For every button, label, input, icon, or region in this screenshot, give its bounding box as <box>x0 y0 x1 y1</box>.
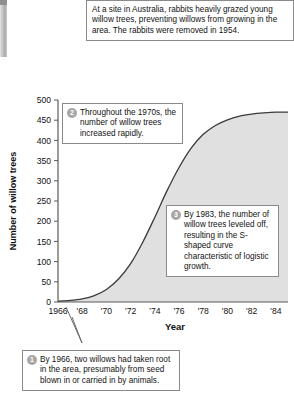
intro-note-box: At a site in Australia, rabbits heavily … <box>86 0 294 41</box>
x-tick-label: '80 <box>222 306 233 316</box>
x-tick-label: '82 <box>246 306 257 316</box>
x-tick-label: '70 <box>101 306 112 316</box>
x-tick-label: '84 <box>270 306 281 316</box>
callout-3-text: By 1983, the number of willow trees leve… <box>184 210 269 271</box>
x-axis-title: Year <box>165 321 185 332</box>
x-tick-label: '74 <box>149 306 160 316</box>
y-axis-title: Number of willow trees <box>8 152 18 251</box>
callout-box-2: 2 Throughout the 1970s, the number of wi… <box>62 103 183 144</box>
callout-2-text: Throughout the 1970s, the number of will… <box>80 108 176 138</box>
callout-1-badge: 1 <box>27 355 37 365</box>
y-tick-label: 250 <box>37 196 52 206</box>
y-tick-label: 50 <box>41 277 51 287</box>
callout-box-1: 1 By 1966, two willows had taken root in… <box>22 350 180 391</box>
callout-1-text: By 1966, two willows had taken root in t… <box>40 355 170 385</box>
callout-box-3: 3 By 1983, the number of willow trees le… <box>166 205 279 277</box>
callout-3-badge: 3 <box>171 210 181 220</box>
y-tick-label: 350 <box>37 156 52 166</box>
x-tick-label: 1966 <box>48 306 67 316</box>
x-tick-label: '72 <box>125 306 136 316</box>
x-tick-label: '76 <box>173 306 184 316</box>
y-tick-label: 400 <box>37 136 52 146</box>
page-edge-cap <box>0 0 7 5</box>
callout-2-badge: 2 <box>67 108 77 118</box>
y-tick-label: 100 <box>37 257 52 267</box>
y-tick-label: 500 <box>37 95 52 105</box>
y-tick-label: 300 <box>37 176 52 186</box>
y-tick-label: 450 <box>37 115 52 125</box>
y-tick-label: 150 <box>37 237 52 247</box>
y-tick-label: 200 <box>37 216 52 226</box>
page-edge-sliver <box>0 0 7 57</box>
x-tick-label: '78 <box>198 306 209 316</box>
intro-note-text: At a site in Australia, rabbits heavily … <box>92 5 277 35</box>
x-axis-ticks: 1966'68'70'72'74'76'78'80'82'84 <box>48 306 281 316</box>
y-axis-ticks: 050100150200250300350400450500 <box>37 95 58 307</box>
x-tick-label: '68 <box>77 306 88 316</box>
figure-root: At a site in Australia, rabbits heavily … <box>0 0 294 400</box>
